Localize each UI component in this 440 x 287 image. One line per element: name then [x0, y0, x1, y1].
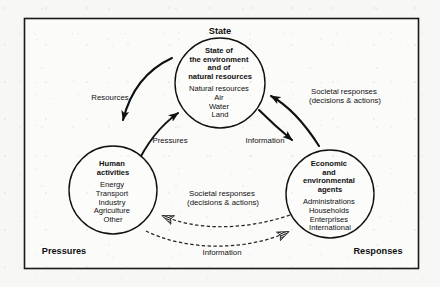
corner-label-pressures: Pressures: [42, 246, 86, 256]
node-agents-items: Administrations Households Enterprises I…: [303, 197, 357, 232]
psr-framework-diagram: State Pressures Responses State of the e…: [0, 0, 440, 287]
arrow-label-societal-responses-bottom: Societal responses (decisions & actions): [187, 189, 259, 207]
arrow-label-pressures: Pressures: [152, 136, 187, 145]
corner-label-state: State: [209, 26, 231, 36]
corner-label-responses: Responses: [353, 246, 402, 256]
arrow-label-information-right: Information: [245, 136, 284, 145]
arrow-label-information-bottom: Information: [202, 248, 241, 257]
node-human-activities-heading: Human activities: [97, 159, 130, 177]
arrow-label-societal-responses-right: Societal responses (decisions & actions): [309, 87, 381, 105]
figure-canvas: State Pressures Responses State of the e…: [0, 0, 440, 287]
arrow-label-resources: Resources: [91, 93, 128, 102]
